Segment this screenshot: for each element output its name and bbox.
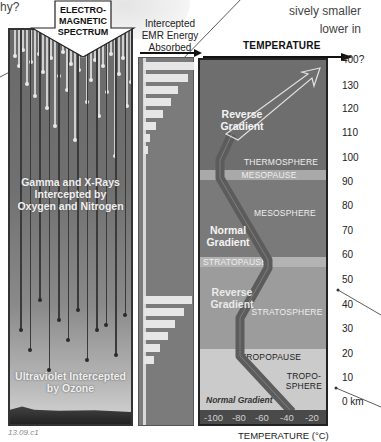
temperature-tick: -40 (280, 412, 294, 423)
reverse-gradient-lower-label: Reverse Gradient (202, 286, 262, 310)
normal-gradient-bottom-label: Normal Gradient (206, 394, 273, 406)
reverse-gradient-upper-label: Reverse Gradient (212, 108, 272, 132)
label-line: ELECTRO- (30, 5, 136, 16)
temperature-tick: -80 (232, 412, 246, 423)
label-line: Reverse (202, 286, 262, 298)
label-line: Ultraviolet Intercepted (10, 370, 131, 382)
gamma-ray-arrow (14, 30, 16, 56)
altitude-tick: 130 (342, 80, 359, 91)
altitude-tick: 20 (342, 348, 353, 359)
absorption-bar (144, 62, 194, 70)
absorption-bar (144, 122, 156, 130)
absorption-bar (144, 134, 150, 142)
label-line: MAGNETIC (30, 16, 136, 27)
temperature-title: TEMPERATURE (243, 40, 321, 51)
label-line: Normal (200, 224, 256, 236)
label-line: Gradient (202, 298, 262, 310)
label-line: Gamma and X-Rays (10, 176, 131, 188)
altitude-tick: 120 (342, 103, 359, 114)
altitude-tick: 90 (342, 176, 353, 187)
absorption-bar (144, 320, 175, 328)
ultraviolet-ray-arrow (39, 30, 41, 300)
ultraviolet-ray-arrow (58, 30, 60, 320)
label-line: SPECTRUM (30, 27, 136, 38)
altitude-tick: 0 km (342, 396, 364, 407)
right-arrow-icon (140, 49, 202, 57)
spectrum-label: ELECTRO- MAGNETIC SPECTRUM (30, 5, 136, 38)
altitude-tick: 60 (342, 249, 353, 260)
absorption-bar (144, 110, 163, 118)
label-line: by Ozone (10, 382, 131, 394)
absorption-bar (144, 74, 188, 82)
absorption-bar (144, 98, 171, 106)
ground-silhouette (10, 402, 131, 424)
figure-id: 13.09.c1 (8, 428, 39, 437)
absorbed-energy-panel (138, 57, 194, 426)
label-line: Intercepted by (10, 188, 131, 200)
title-line: EMR Energy (136, 30, 204, 42)
gamma-ray-arrow (26, 30, 28, 84)
ultraviolet-ray-arrow (77, 30, 79, 310)
title-line: Intercepted (136, 18, 204, 30)
spectrum-panel: Gamma and X-Rays Intercepted by Oxygen a… (8, 28, 133, 426)
altitude-tick: 110 (342, 127, 358, 138)
gamma-ray-arrow (22, 30, 24, 50)
temperature-axis-label: TEMPERATURE (°C) (238, 430, 329, 441)
absorption-bar (144, 146, 148, 154)
altitude-tick: 50 (342, 274, 353, 285)
altitude-tick: 10 (342, 372, 353, 383)
electromagnetic-spectrum-callout: ELECTRO- MAGNETIC SPECTRUM (30, 0, 136, 58)
ultraviolet-ray-arrow (125, 30, 127, 315)
temperature-tick: -20 (305, 412, 319, 423)
label-line: Reverse (212, 108, 272, 120)
absorption-bar (144, 344, 160, 352)
label-line: Gradient (212, 120, 272, 132)
altitude-tick: 40 (342, 299, 353, 310)
absorption-bar (144, 332, 168, 340)
altitude-tick: 30 (342, 323, 353, 334)
temperature-tick: -100 (204, 412, 223, 423)
altitude-tick: 400? (342, 54, 364, 65)
temperature-profile-panel: THERMOSPHERE MESOPAUSE MESOSPHERE STRATO… (198, 58, 328, 426)
altitude-tick: 80 (342, 200, 353, 211)
label-line: Gradient (200, 236, 256, 248)
gamma-xray-label: Gamma and X-Rays Intercepted by Oxygen a… (10, 176, 131, 212)
altitude-tick: 100 (342, 152, 359, 163)
temperature-axis-bar: -100 -80 -60 -40 -20 (200, 410, 326, 424)
absorption-bar (144, 308, 184, 316)
absorption-bar (144, 86, 178, 94)
temperature-tick: -60 (255, 412, 269, 423)
normal-gradient-middle-label: Normal Gradient (200, 224, 256, 248)
absorption-bar (144, 356, 154, 364)
ultraviolet-label: Ultraviolet Intercepted by Ozone (10, 370, 131, 394)
label-line: Oxygen and Nitrogen (10, 200, 131, 212)
altitude-tick: 70 (342, 225, 353, 236)
absorption-bar (144, 296, 192, 304)
